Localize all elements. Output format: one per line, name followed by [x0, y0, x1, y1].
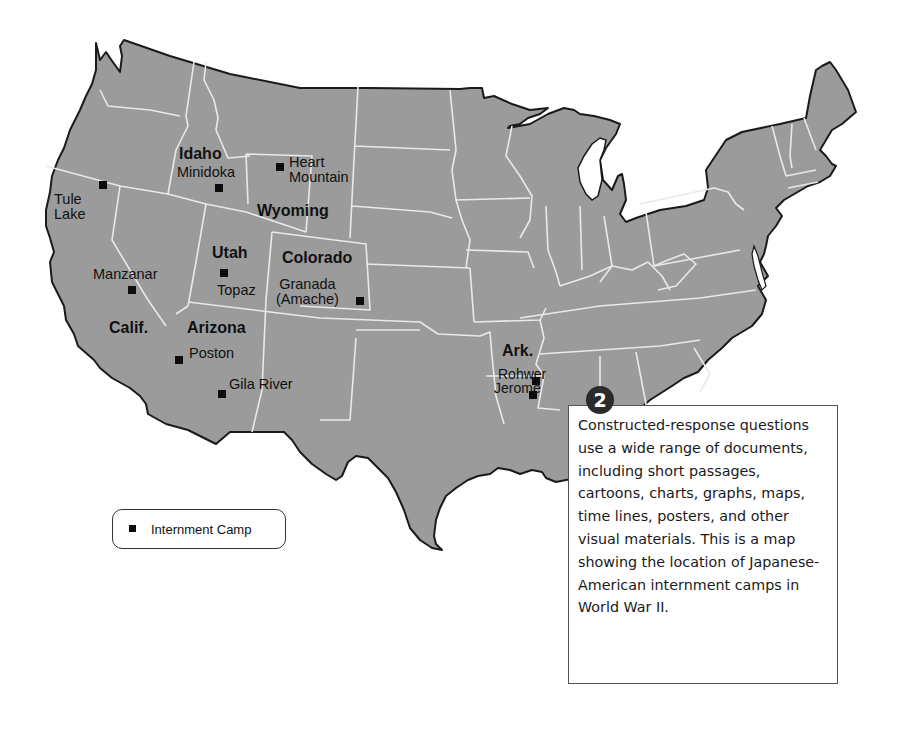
camp-label-minidoka: Minidoka: [177, 165, 235, 180]
state-label-arizona: Arizona: [187, 320, 246, 336]
camp-label-gila-river: Gila River: [229, 377, 293, 392]
camp-marker-heart-mountain: [276, 163, 284, 171]
camp-label-tule-lake: Tule Lake: [54, 192, 85, 222]
state-label-utah: Utah: [212, 245, 248, 261]
state-label-california: Calif.: [109, 320, 148, 336]
callout-number-badge: 2: [586, 386, 614, 414]
state-label-wyoming: Wyoming: [257, 203, 329, 219]
state-label-idaho: Idaho: [179, 146, 222, 162]
camp-label-jerome: Jerome: [494, 381, 541, 395]
camp-label-poston: Poston: [189, 346, 234, 361]
camp-marker-gila-river: [218, 390, 226, 398]
camp-label-manzanar: Manzanar: [93, 267, 157, 282]
map-legend: Internment Camp: [112, 509, 286, 549]
callout-text: Constructed-response questions use a wid…: [578, 414, 829, 619]
camp-marker-tule-lake: [99, 181, 107, 189]
camp-label-topaz: Topaz: [217, 283, 256, 298]
camp-label-heart-mountain: Heart Mountain: [289, 155, 349, 185]
camp-marker-topaz: [220, 269, 228, 277]
camp-marker-poston: [175, 356, 183, 364]
square-marker-icon: [129, 525, 136, 532]
camp-marker-granada: [356, 297, 364, 305]
camp-label-granada: Granada (Amache): [276, 277, 339, 307]
camp-marker-manzanar: [128, 286, 136, 294]
state-label-arkansas: Ark.: [502, 343, 533, 359]
state-label-colorado: Colorado: [282, 250, 352, 266]
legend-label: Internment Camp: [151, 522, 251, 537]
callout-box: Constructed-response questions use a wid…: [568, 405, 838, 684]
camp-marker-minidoka: [215, 184, 223, 192]
camp-label-rohwer: Rohwer: [498, 367, 546, 381]
